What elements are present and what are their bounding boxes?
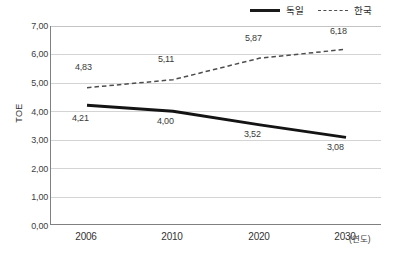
y-tick-label: 2,00 xyxy=(2,164,48,174)
y-tick-label: 7,00 xyxy=(2,21,48,31)
data-label-korea-2010: 5,11 xyxy=(158,54,174,64)
line-chart: 독일 한국 TOE 7,00 6,00 5,00 4,00 3,00 2,00 … xyxy=(0,0,395,253)
legend-label-korea: 한국 xyxy=(354,3,372,17)
series-line-korea xyxy=(87,49,346,87)
y-tick-label: 3,00 xyxy=(2,135,48,145)
data-label-germany-2006: 4,21 xyxy=(72,113,89,123)
data-label-germany-2010: 4,00 xyxy=(157,116,174,126)
y-tick-label: 6,00 xyxy=(2,49,48,59)
data-series-svg xyxy=(51,26,382,225)
x-tick-label-2020: 2020 xyxy=(237,231,281,242)
legend-item-korea: 한국 xyxy=(318,2,372,18)
chart-legend: 독일 한국 xyxy=(250,2,392,18)
y-tick-label: 1,00 xyxy=(2,192,48,202)
data-label-germany-2030: 3,08 xyxy=(327,142,344,152)
plot-area xyxy=(50,26,381,225)
y-tick-label: 4,00 xyxy=(2,107,48,117)
solid-line-swatch-icon xyxy=(250,5,280,15)
x-tick-label-2006: 2006 xyxy=(64,231,108,242)
legend-item-germany: 독일 xyxy=(250,2,304,18)
data-label-germany-2020: 3,52 xyxy=(244,129,261,139)
x-axis-unit-label: (연도) xyxy=(349,232,371,244)
legend-label-germany: 독일 xyxy=(286,3,304,17)
x-tick-label-2010: 2010 xyxy=(150,231,194,242)
y-tick-label: 0,00 xyxy=(2,221,48,231)
y-tick-label: 5,00 xyxy=(2,78,48,88)
dashed-line-swatch-icon xyxy=(318,5,348,15)
y-axis-ticks: 7,00 6,00 5,00 4,00 3,00 2,00 1,00 0,00 xyxy=(0,0,48,253)
data-label-korea-2020: 5,87 xyxy=(245,33,262,43)
data-label-korea-2006: 4,83 xyxy=(75,62,92,72)
data-label-korea-2030: 6,18 xyxy=(330,26,347,36)
series-line-germany xyxy=(87,105,346,137)
